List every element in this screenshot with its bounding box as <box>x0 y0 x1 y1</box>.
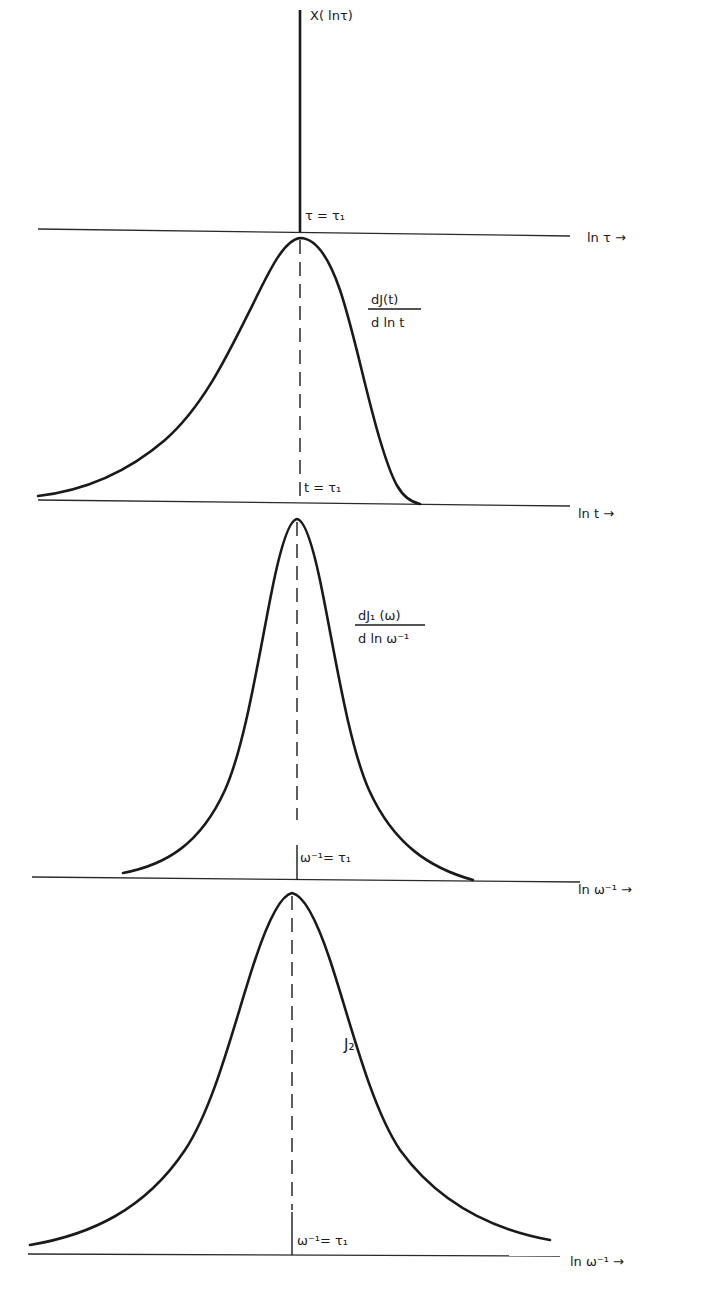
panel-1: X( lnτ) τ = τ₁ ln τ → <box>38 8 626 245</box>
curve-label-denominator: d ln t <box>371 315 404 330</box>
x-axis-label: ln ω⁻¹ → <box>570 1254 624 1269</box>
x-axis-ln-omega-inv <box>32 877 580 882</box>
curve-label-denominator: d ln ω⁻¹ <box>358 631 409 646</box>
x-axis-ln-omega-inv <box>28 1254 560 1256</box>
curve-label: J₂ <box>343 1036 354 1054</box>
y-axis-label: X( lnτ) <box>310 8 353 23</box>
marker-label: t = τ₁ <box>304 480 341 495</box>
curve-label-numerator: dJ₁ (ω) <box>358 608 400 623</box>
marker-label: ω⁻¹= τ₁ <box>300 850 351 865</box>
relaxation-spectra-figure: X( lnτ) τ = τ₁ ln τ → dJ(t) d ln t t = τ… <box>0 0 702 1297</box>
x-axis-ln-tau <box>38 229 570 236</box>
x-axis-ln-t <box>38 500 570 506</box>
J2-curve <box>30 893 550 1245</box>
x-axis-label: ln τ → <box>587 230 626 245</box>
panel-3: dJ₁ (ω) d ln ω⁻¹ ω⁻¹= τ₁ ln ω⁻¹ → <box>32 519 632 897</box>
x-axis-label: ln t → <box>578 506 614 521</box>
marker-label: ω⁻¹= τ₁ <box>297 1233 348 1248</box>
dJ-t-curve <box>38 238 420 504</box>
curve-label-numerator: dJ(t) <box>371 292 398 307</box>
x-axis-label: ln ω⁻¹ → <box>578 882 632 897</box>
dJ1-omega-curve <box>123 519 473 880</box>
panel-4: J₂ ω⁻¹= τ₁ ln ω⁻¹ → <box>28 893 624 1269</box>
panel-2: dJ(t) d ln t t = τ₁ ln t → <box>38 238 614 521</box>
marker-label: τ = τ₁ <box>305 208 345 223</box>
